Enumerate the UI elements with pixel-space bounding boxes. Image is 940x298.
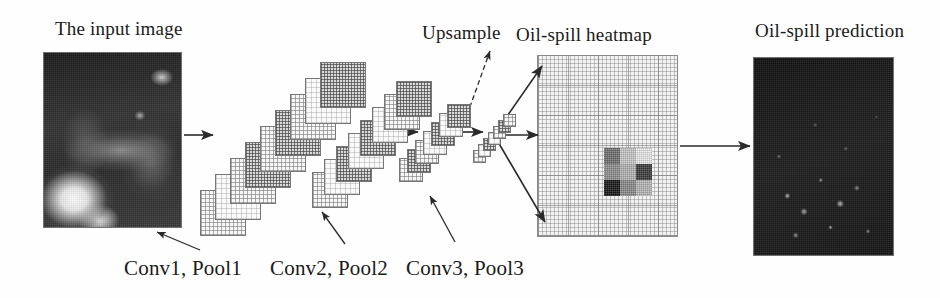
conv3-pool3-stack-map-6: [447, 104, 471, 128]
heatmap-cell-6: [604, 180, 620, 196]
heatmap-cell-1: [620, 148, 636, 164]
heatmap-cell-8: [636, 180, 652, 196]
heatmap-cell-2: [636, 148, 652, 164]
conv1-pool1-stack-map-8: [320, 62, 366, 108]
heatmap-cell-5: [636, 164, 652, 180]
upsample-stack-map-6: [503, 114, 516, 127]
oil-spill-heatmap: [537, 55, 678, 237]
figure-canvas: The input image Upsample Oil-spill heatm…: [0, 0, 940, 298]
stage-label-conv3: Conv3, Pool3: [406, 256, 524, 281]
prediction-title: Oil-spill prediction: [755, 20, 904, 42]
pointer-conv3: [430, 196, 455, 242]
input-image-grain: [44, 53, 181, 227]
pointer-conv1: [157, 232, 200, 250]
conv2-pool2-stack-map-7: [396, 81, 432, 117]
stage-label-conv2: Conv2, Pool2: [270, 256, 388, 281]
prediction-image-grain: [754, 58, 893, 255]
heatmap-cell-7: [620, 180, 636, 196]
heatmap-cell-4: [620, 164, 636, 180]
heatmap-cell-0: [604, 148, 620, 164]
oil-spill-prediction-image: [753, 57, 894, 256]
heatmap-title: Oil-spill heatmap: [516, 24, 652, 46]
upsample-title: Upsample: [422, 22, 501, 44]
input-sar-image: [43, 52, 182, 228]
heatmap-cell-3: [604, 164, 620, 180]
pointer-conv2: [322, 212, 345, 244]
heatmap-coarse-grid: [538, 56, 677, 236]
input-image-title: The input image: [55, 18, 183, 40]
heatmap-activation-block: [604, 148, 652, 196]
stage-label-conv1: Conv1, Pool1: [124, 256, 242, 281]
